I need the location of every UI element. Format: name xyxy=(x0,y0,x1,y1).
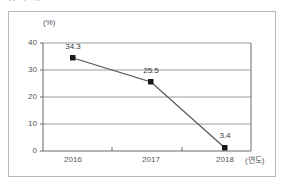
data-point-label-2018: 3.4 xyxy=(208,131,242,140)
y-tick-label-0: 0 xyxy=(15,146,37,155)
x-axis-unit-label: (연도) xyxy=(245,154,264,165)
line-chart-plot xyxy=(9,12,277,178)
x-tick-label-2018: 2018 xyxy=(205,155,245,164)
chart-frame: (%) (연도) 40 30 20 10 0 2016 2017 2018 34… xyxy=(8,11,276,177)
x-tick-label-2017: 2017 xyxy=(131,155,171,164)
y-tick-label-20: 20 xyxy=(15,92,37,101)
y-tick-label-40: 40 xyxy=(15,38,37,47)
y-tick-label-30: 30 xyxy=(15,65,37,74)
y-tick-label-10: 10 xyxy=(15,119,37,128)
data-point-label-2017: 25.5 xyxy=(134,66,168,75)
x-tick-label-2016: 2016 xyxy=(53,155,93,164)
cropped-heading-text: ㅇ ㅣ 요 xyxy=(8,0,42,1)
data-point-label-2016: 34.3 xyxy=(56,42,90,51)
y-axis-unit-label: (%) xyxy=(43,18,55,27)
x-axis-ticks xyxy=(112,147,182,151)
